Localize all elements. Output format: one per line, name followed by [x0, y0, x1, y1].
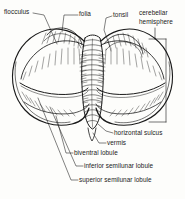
label-biventral-lobule: biventral lobule: [74, 149, 118, 156]
label-cerebellar-hemisphere-line2: hemisphere: [139, 18, 173, 25]
label-flocculus: flocculus: [4, 8, 29, 15]
label-horizontal-sulcus: horizontal sulcus: [114, 129, 162, 136]
left-hemisphere: [12, 28, 89, 125]
label-cerebellar-hemisphere-line1: cerebellar: [139, 9, 168, 16]
label-tonsil: tonsil: [113, 11, 128, 18]
label-folia: folia: [79, 10, 91, 17]
label-inferior-semilunar-lobule: inferior semilunar lobule: [84, 162, 153, 169]
vermis-structure: [81, 35, 104, 141]
label-vermis: vermis: [107, 139, 126, 146]
label-superior-semilunar-lobule: superior semilunar lobule: [79, 176, 152, 183]
right-hemisphere: [96, 29, 173, 125]
cerebellum-figure: flocculus folia tonsil cerebellar hemisp…: [0, 0, 185, 199]
